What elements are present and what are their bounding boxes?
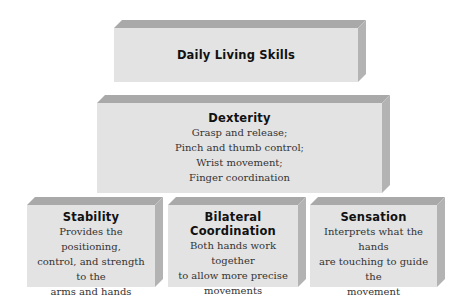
box-title: Stability [63, 210, 119, 224]
box-side-bevel [437, 197, 445, 287]
box-face: Stability Provides the positioning, cont… [27, 205, 155, 287]
box-desc-line: Finger coordination [189, 170, 290, 185]
box-desc-line: to allow more precise [178, 268, 288, 283]
box-desc-line: arms and hands [51, 284, 132, 299]
box-title: Sensation [340, 210, 406, 224]
box-desc-line: are touching to guide the [314, 254, 433, 284]
box-face: Daily Living Skills [114, 28, 358, 82]
box-desc-line: Grasp and release; [192, 125, 288, 140]
box-title: Daily Living Skills [177, 48, 295, 62]
box-top-bevel [27, 197, 163, 205]
box-title: Dexterity [208, 111, 270, 125]
box-title: Bilateral [205, 210, 262, 224]
box-desc-line: Interprets what the hands [314, 224, 433, 254]
box-side-bevel [155, 197, 163, 287]
box-desc-line: Pinch and thumb control; [175, 140, 304, 155]
box-top-bevel [97, 95, 390, 103]
box-desc-line: Provides the positioning, [31, 224, 151, 254]
box-face: Bilateral Coordination Both hands work t… [168, 205, 298, 287]
box-title: Coordination [190, 224, 276, 238]
box-bilateral-coordination: Bilateral Coordination Both hands work t… [168, 197, 306, 287]
box-face: Dexterity Grasp and release; Pinch and t… [97, 103, 382, 193]
box-sensation: Sensation Interprets what the hands are … [310, 197, 445, 287]
box-desc-line: movements [204, 283, 262, 298]
box-desc-line: control, and strength to the [31, 254, 151, 284]
box-side-bevel [358, 20, 366, 82]
box-side-bevel [382, 95, 390, 193]
box-desc-line: Wrist movement; [196, 155, 282, 170]
box-stability: Stability Provides the positioning, cont… [27, 197, 163, 287]
box-desc-line: Both hands work together [172, 238, 294, 268]
box-top-bevel [310, 197, 445, 205]
box-dexterity: Dexterity Grasp and release; Pinch and t… [97, 95, 390, 193]
box-desc-line: movement [347, 284, 400, 299]
box-face: Sensation Interprets what the hands are … [310, 205, 437, 287]
box-side-bevel [298, 197, 306, 287]
box-top-bevel [114, 20, 366, 28]
box-daily-living-skills: Daily Living Skills [114, 20, 366, 82]
box-top-bevel [168, 197, 306, 205]
